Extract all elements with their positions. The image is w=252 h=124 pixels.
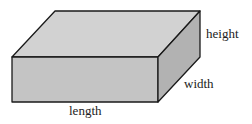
front-face bbox=[12, 57, 158, 102]
height-label: height bbox=[206, 26, 239, 41]
width-label: width bbox=[184, 76, 214, 91]
length-label: length bbox=[69, 103, 102, 118]
prism-diagram: height width length bbox=[0, 0, 252, 124]
